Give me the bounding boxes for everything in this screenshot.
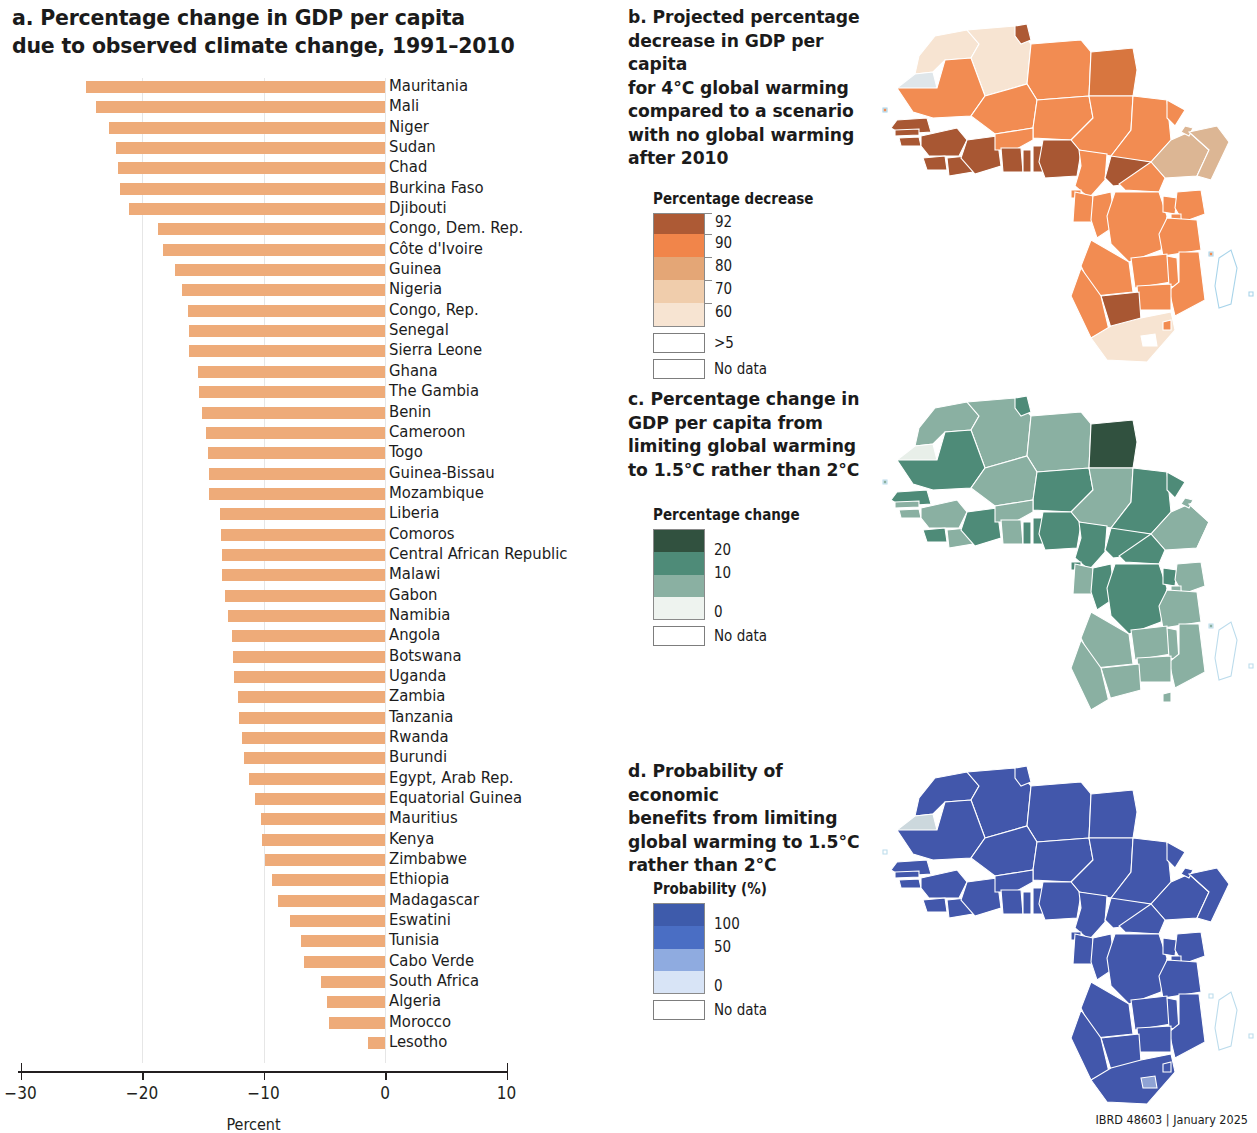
legend-box [653,333,705,353]
bar [244,752,385,764]
bar [321,976,385,988]
bar-label: Egypt, Arab Rep. [389,768,514,788]
legend-tick-label: 100 [714,915,740,933]
country-cverde [883,108,887,112]
x-axis-title: Percent [0,1115,507,1133]
legend-swatch-row: 60 [653,303,813,326]
bar-label: Chad [389,157,427,177]
bar [120,183,385,195]
bar [261,813,385,825]
country-gambia [895,501,919,508]
legend-box-label: No data [714,360,767,378]
axis-tick-label: −30 [4,1083,36,1103]
bar-label: Zimbabwe [389,849,467,869]
country-sleone [923,528,947,542]
country-comoros [1209,624,1213,628]
bar-label: Comoros [389,524,455,544]
bar [175,264,385,276]
panel-c-map: c. Percentage change in GDP per capita f… [620,378,1257,750]
bar [86,81,385,93]
africa-map-d-svg [875,742,1257,1120]
bar [129,203,385,215]
bar-row: Côte d'Ivoire [0,241,620,261]
bar-row: Niger [0,119,620,139]
country-mauritius [1249,292,1253,296]
country-libya [1027,412,1091,472]
axis-endcap [21,1063,23,1072]
bar-chart-plot-area: MauritaniaMaliNigerSudanChadBurkina Faso… [0,78,620,1068]
axis-endcap [507,1063,509,1072]
bar-label: The Gambia [389,381,479,401]
legend-swatch-row: 0 [653,597,800,619]
country-tanzania [1159,960,1201,998]
axis-tick [264,1071,266,1080]
country-drc [1107,934,1167,1004]
bar-row: Mozambique [0,485,620,505]
bar-label: Lesotho [389,1032,447,1052]
legend-swatch-row: 0 [653,971,767,993]
bar-row: Central African Republic [0,546,620,566]
legend-swatch-row: 92 [653,213,813,234]
country-tanzania [1159,218,1201,256]
bar-row: Mauritius [0,810,620,830]
country-nigeria [1039,140,1081,178]
panel-c-legend: Percentage change 20100 No data [653,506,800,646]
country-gambia [895,871,919,878]
country-gbissau [899,137,921,146]
africa-map-c [875,372,1257,754]
legend-tick-label: 92 [715,213,732,231]
bar-label: Côte d'Ivoire [389,239,483,259]
bar-row: Ghana [0,363,620,383]
bar-label: Congo, Dem. Rep. [389,218,523,238]
legend-swatch [653,597,705,619]
panel-b-title: b. Projected percentage decrease in GDP … [628,6,878,171]
panel-c-title-line-2: GDP per capita from [628,412,878,436]
legend-swatch [653,552,705,575]
bar-list: MauritaniaMaliNigerSudanChadBurkina Faso… [0,78,620,1055]
bar-row: Benin [0,404,620,424]
bar [189,345,385,357]
legend-stack-bottom [653,993,767,994]
legend-swatch [653,529,705,552]
country-cverde [883,480,887,484]
bar-label: Sudan [389,137,436,157]
bar-label: Algeria [389,991,441,1011]
panel-b-map: b. Projected percentage decrease in GDP … [620,0,1257,378]
bar-label: Tunisia [389,930,439,950]
bar [278,895,385,907]
bar-label: Madagascar [389,890,479,910]
panel-a-bar-chart: a. Percentage change in GDP per capita d… [0,0,620,1133]
bar-label: Togo [389,442,423,462]
bar-label: Malawi [389,564,440,584]
country-eswatini [1163,1062,1171,1072]
bar-label: Kenya [389,829,434,849]
bar-row: Congo, Dem. Rep. [0,220,620,240]
country-sleone [923,898,947,912]
bar [221,529,385,541]
country-mauritius [1249,664,1253,668]
panel-d-title-line-1: d. Probability of economic [628,760,878,807]
bar-row: Namibia [0,607,620,627]
bar-row: Uganda [0,668,620,688]
bar [206,427,385,439]
bar [118,162,385,174]
bar-row: Mauritania [0,78,620,98]
legend-swatch [653,903,705,926]
bar-label: Equatorial Guinea [389,788,522,808]
bar-label: Senegal [389,320,449,340]
legend-box-row: No data [653,626,800,646]
bar-label: Niger [389,117,429,137]
bar-label: Rwanda [389,727,448,747]
bar [189,325,385,337]
legend-swatch [653,949,705,971]
bar-label: Zambia [389,686,445,706]
bar-row: Madagascar [0,892,620,912]
axis-tick-label: −10 [247,1083,279,1103]
bar [262,834,385,846]
bar-row: Mali [0,98,620,118]
country-ghana [1001,520,1023,544]
legend-swatch-row: 50 [653,926,767,949]
bar-label: Djibouti [389,198,447,218]
bar [96,101,385,113]
bar [199,386,385,398]
